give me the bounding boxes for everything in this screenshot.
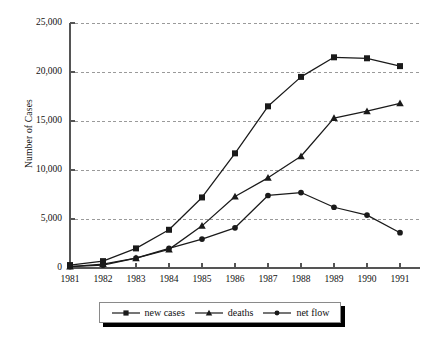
data-point (199, 236, 205, 242)
data-point (364, 55, 370, 61)
data-point (133, 245, 139, 251)
data-point (166, 227, 172, 233)
series-deaths (66, 100, 404, 270)
data-point (264, 174, 272, 181)
data-point (331, 204, 337, 210)
gridlines (70, 23, 420, 219)
data-point (199, 194, 205, 200)
legend-item-deaths[interactable]: deaths (194, 307, 254, 319)
data-point (231, 193, 239, 200)
legend-marker-diamond-icon (262, 307, 292, 319)
legend-marker-triangle-icon (194, 307, 224, 319)
data-point (100, 262, 106, 268)
data-series-layer (66, 54, 404, 269)
data-point (397, 63, 403, 69)
legend-marker-square-icon (111, 307, 141, 319)
data-point (364, 212, 370, 218)
chart-legend: new casesdeathsnet flow (99, 302, 341, 323)
data-point (265, 193, 271, 199)
legend-item-net-flow[interactable]: net flow (262, 307, 329, 319)
plot-area (0, 0, 431, 344)
series-net-flow (67, 190, 403, 270)
chart-container: Number of Cases 05,00010,00015,00020,000… (0, 0, 431, 344)
data-point (331, 54, 337, 60)
data-point (232, 225, 238, 231)
data-point (397, 230, 403, 236)
legend-item-new-cases[interactable]: new cases (111, 307, 185, 319)
legend-item-label: deaths (228, 308, 254, 318)
data-point (166, 246, 172, 252)
series-new-cases (67, 54, 403, 268)
data-point (265, 103, 271, 109)
data-point (133, 255, 139, 261)
data-point (298, 74, 304, 80)
data-point (298, 190, 304, 196)
data-point (67, 264, 73, 270)
data-point (396, 100, 404, 107)
legend-item-label: new cases (145, 308, 185, 318)
axis-ticks (70, 23, 400, 268)
data-point (232, 150, 238, 156)
legend-item-label: net flow (296, 308, 329, 318)
